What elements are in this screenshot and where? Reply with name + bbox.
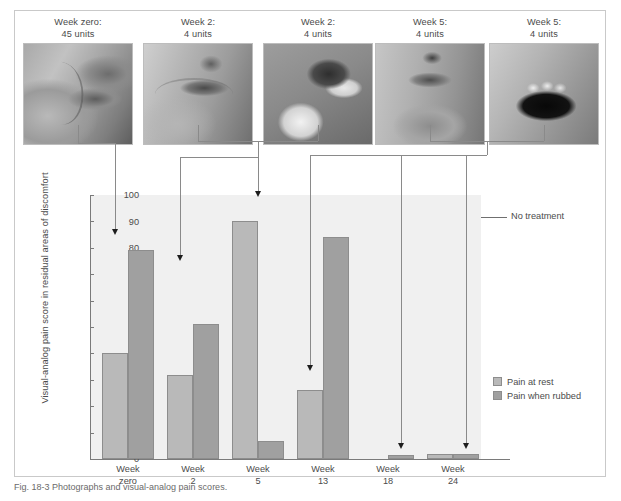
connector-photo4-v1 bbox=[430, 125, 431, 141]
connector-photo1-v1 bbox=[78, 125, 79, 143]
connector-photo23-v-mid bbox=[258, 141, 259, 157]
connector-photo5-v1 bbox=[544, 125, 545, 141]
legend-item-pain-when-rubbed: Pain when rubbed bbox=[493, 390, 581, 401]
photo-caption-2-line1: Week 2: bbox=[143, 17, 253, 29]
legend-swatch-pain-when-rubbed bbox=[493, 391, 502, 400]
photo-strip: Week zero: 45 units Week 2: 4 units Week… bbox=[15, 11, 607, 161]
connector-photo23-h2 bbox=[180, 157, 258, 158]
connector-photo1-h bbox=[78, 143, 116, 144]
photo-caption-1-line1: Week zero: bbox=[23, 17, 133, 29]
connector-week24-v bbox=[466, 155, 467, 445]
bar-week-13-rubbed bbox=[323, 237, 349, 459]
bar-week-24-rubbed bbox=[453, 454, 479, 459]
photo-caption-1: Week zero: 45 units bbox=[23, 17, 133, 40]
no-treatment-label: No treatment bbox=[511, 211, 564, 221]
photo-caption-4-line2: 4 units bbox=[375, 29, 485, 41]
y-tick-label-100: 100 bbox=[115, 190, 139, 200]
connector-week13-arrowhead bbox=[307, 365, 313, 371]
photo-caption-3-line2: 4 units bbox=[263, 29, 373, 41]
connector-week2-arrowhead bbox=[177, 255, 183, 261]
legend-item-pain-at-rest: Pain at rest bbox=[493, 376, 581, 387]
bar-week-zero-rubbed bbox=[128, 250, 154, 459]
figure-caption: Fig. 18-3 Photographs and visual-analog … bbox=[14, 482, 606, 493]
connector-photo2-v1 bbox=[198, 125, 199, 141]
bar-week-5-rest bbox=[232, 221, 258, 459]
connector-week18-arrowhead bbox=[398, 443, 404, 449]
no-treatment-leader-line bbox=[481, 217, 507, 218]
photo-caption-4: Week 5: 4 units bbox=[375, 17, 485, 40]
photo-caption-5-line1: Week 5: bbox=[489, 17, 599, 29]
bar-week-18-rubbed bbox=[388, 455, 414, 459]
bar-week-zero-rest bbox=[102, 353, 128, 459]
legend-swatch-pain-at-rest bbox=[493, 377, 502, 386]
connector-photo1-arrowhead bbox=[112, 229, 118, 235]
legend-label-pain-at-rest: Pain at rest bbox=[507, 377, 553, 387]
legend-label-pain-when-rubbed: Pain when rubbed bbox=[507, 391, 581, 401]
bar-week-2-rest bbox=[167, 375, 193, 460]
photo-caption-3-line1: Week 2: bbox=[263, 17, 373, 29]
x-axis-line bbox=[90, 459, 510, 460]
connector-photo3-v1 bbox=[318, 125, 319, 141]
figure-panel: Week zero: 45 units Week 2: 4 units Week… bbox=[14, 10, 606, 477]
y-tick-label-90: 90 bbox=[115, 217, 139, 227]
photo-caption-5: Week 5: 4 units bbox=[489, 17, 599, 40]
y-axis-title: Visual-analog pain score in residual are… bbox=[40, 154, 50, 422]
connector-week13-v bbox=[310, 155, 311, 367]
bar-chart: Visual-analog pain score in residual are… bbox=[15, 161, 607, 478]
photo-caption-3: Week 2: 4 units bbox=[263, 17, 373, 40]
connector-week18-v bbox=[401, 155, 402, 445]
connector-photo45-h2 bbox=[310, 155, 487, 156]
connector-week5-v bbox=[258, 157, 259, 193]
photo-caption-4-line1: Week 5: bbox=[375, 17, 485, 29]
photo-caption-2-line2: 4 units bbox=[143, 29, 253, 41]
connector-week24-arrowhead bbox=[463, 443, 469, 449]
connector-week2-v bbox=[180, 157, 181, 257]
bar-week-24-rest bbox=[427, 454, 453, 459]
connector-photo45-v-mid bbox=[487, 141, 488, 155]
bar-week-13-rest bbox=[297, 390, 323, 459]
photo-caption-1-line2: 45 units bbox=[23, 29, 133, 41]
connector-photo1-v2 bbox=[115, 143, 116, 231]
photo-caption-5-line2: 4 units bbox=[489, 29, 599, 41]
bar-week-2-rubbed bbox=[193, 324, 219, 459]
chart-legend: Pain at rest Pain when rubbed bbox=[493, 376, 581, 404]
connector-week5-arrowhead bbox=[255, 191, 261, 197]
photo-caption-2: Week 2: 4 units bbox=[143, 17, 253, 40]
bar-week-5-rubbed bbox=[258, 441, 284, 460]
